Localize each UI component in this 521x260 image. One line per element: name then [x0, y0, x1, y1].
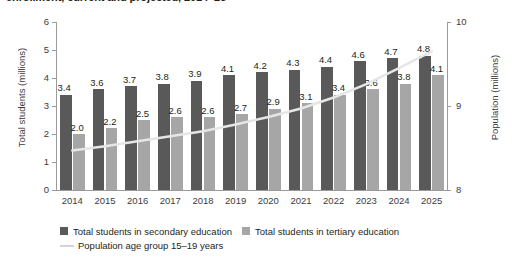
- bar-value-label: 3.7: [123, 75, 136, 85]
- bar-secondary: [289, 70, 301, 190]
- bar-group: 4.12.7: [223, 22, 248, 190]
- plot-area: 0123456 8910 3.42.03.62.23.72.53.82.63.9…: [56, 22, 448, 190]
- bar-value-label: 4.4: [319, 55, 332, 65]
- y-axis-left-tick-label: 6: [44, 17, 49, 27]
- bar-tertiary: [269, 109, 281, 190]
- bar-tertiary: [367, 89, 379, 190]
- x-axis-tick-label: 2025: [415, 196, 448, 206]
- x-axis-tick-label: 2022: [317, 196, 350, 206]
- legend-row-2: Population age group 15–19 years: [60, 238, 409, 252]
- y-axis-right-tick-label: 10: [456, 17, 467, 27]
- legend-item-secondary: Total students in secondary education: [60, 226, 232, 237]
- y-axis-left-tick: [52, 190, 56, 191]
- chart-legend: Total students in secondary education To…: [60, 224, 409, 252]
- bar-tertiary: [138, 120, 150, 190]
- bar-value-label: 2.0: [71, 123, 84, 133]
- bar-value-label: 2.6: [201, 106, 214, 116]
- bar-group: 3.62.2: [93, 22, 118, 190]
- y-axis-left-tick-label: 0: [44, 185, 49, 195]
- y-axis-right-title: Population (millions): [489, 28, 500, 168]
- bar-secondary: [256, 72, 268, 190]
- legend-item-population: Population age group 15–19 years: [60, 240, 223, 251]
- bar-value-label: 3.6: [365, 78, 378, 88]
- bar-tertiary: [400, 84, 412, 190]
- x-axis-line: [56, 190, 448, 191]
- page-title: enrollment, current and projected, 2014–…: [6, 0, 226, 3]
- x-axis-tick-label: 2021: [285, 196, 318, 206]
- bar-value-label: 2.9: [267, 97, 280, 107]
- square-dark-icon: [60, 227, 68, 235]
- bar-group: 4.22.9: [256, 22, 281, 190]
- x-axis-tick-label: 2016: [121, 196, 154, 206]
- bar-secondary: [93, 89, 105, 190]
- y-axis-left-tick: [52, 50, 56, 51]
- x-axis-tick-label: 2017: [154, 196, 187, 206]
- x-axis-tick-label: 2023: [350, 196, 383, 206]
- legend-row-1: Total students in secondary education To…: [60, 224, 409, 238]
- bar-value-label: 4.2: [254, 61, 267, 71]
- bar-tertiary: [302, 103, 314, 190]
- bar-value-label: 4.7: [384, 47, 397, 57]
- legend-item-tertiary: Total students in tertiary education: [242, 226, 399, 237]
- bar-value-label: 4.8: [417, 44, 430, 54]
- legend-label-population: Population age group 15–19 years: [78, 240, 223, 251]
- bar-value-label: 4.1: [430, 64, 443, 74]
- bar-tertiary: [204, 117, 216, 190]
- line-segment-icon: [60, 241, 74, 249]
- bar-tertiary: [106, 128, 118, 190]
- chart-page: enrollment, current and projected, 2014–…: [0, 0, 521, 260]
- bar-group: 3.72.5: [125, 22, 150, 190]
- y-axis-left-tick-label: 1: [44, 157, 49, 167]
- bar-group: 3.92.6: [191, 22, 216, 190]
- y-axis-left-tick-label: 4: [44, 73, 49, 83]
- bar-value-label: 4.1: [221, 64, 234, 74]
- bar-group: 4.73.8: [387, 22, 412, 190]
- y-axis-right-tick: [447, 190, 451, 191]
- y-axis-left-tick-label: 3: [44, 101, 49, 111]
- y-axis-right-tick: [447, 106, 451, 107]
- y-axis-left-title: Total students (millions): [16, 28, 27, 168]
- bar-tertiary: [236, 114, 248, 190]
- bar-group: 4.84.1: [419, 22, 444, 190]
- bar-value-label: 3.6: [90, 78, 103, 88]
- y-axis-left-tick: [52, 134, 56, 135]
- y-axis-right-tick-label: 8: [456, 185, 461, 195]
- y-axis-left-tick-label: 2: [44, 129, 49, 139]
- bar-group: 3.82.6: [158, 22, 183, 190]
- y-axis-left-line: [56, 22, 57, 191]
- bar-value-label: 2.5: [136, 109, 149, 119]
- y-axis-right-tick-label: 9: [456, 101, 461, 111]
- legend-label-secondary: Total students in secondary education: [73, 226, 232, 237]
- bar-group: 4.43.4: [321, 22, 346, 190]
- bar-value-label: 3.1: [299, 92, 312, 102]
- legend-label-tertiary: Total students in tertiary education: [255, 226, 399, 237]
- bar-value-label: 3.8: [156, 72, 169, 82]
- bar-value-label: 2.6: [169, 106, 182, 116]
- bar-secondary: [60, 95, 72, 190]
- bar-value-label: 3.9: [188, 69, 201, 79]
- bar-value-label: 2.2: [103, 117, 116, 127]
- y-axis-left-tick: [52, 78, 56, 79]
- bar-tertiary: [334, 95, 346, 190]
- x-axis-tick-label: 2014: [56, 196, 89, 206]
- bar-tertiary: [432, 75, 444, 190]
- x-axis-tick-label: 2018: [187, 196, 220, 206]
- bar-secondary: [419, 56, 431, 190]
- x-axis-tick-label: 2024: [383, 196, 416, 206]
- bar-secondary: [158, 84, 170, 190]
- bar-tertiary: [73, 134, 85, 190]
- bar-group: 3.42.0: [60, 22, 85, 190]
- bar-secondary: [191, 81, 203, 190]
- bar-secondary: [223, 75, 235, 190]
- bar-value-label: 3.4: [58, 83, 71, 93]
- bar-tertiary: [171, 117, 183, 190]
- bar-value-label: 4.3: [286, 58, 299, 68]
- bar-value-label: 2.7: [234, 103, 247, 113]
- bar-group: 4.33.1: [289, 22, 314, 190]
- bar-value-label: 3.8: [397, 72, 410, 82]
- x-axis-tick-label: 2015: [89, 196, 122, 206]
- y-axis-left-tick: [52, 162, 56, 163]
- square-light-icon: [242, 227, 250, 235]
- y-axis-left-tick-label: 5: [44, 45, 49, 55]
- y-axis-left-tick: [52, 22, 56, 23]
